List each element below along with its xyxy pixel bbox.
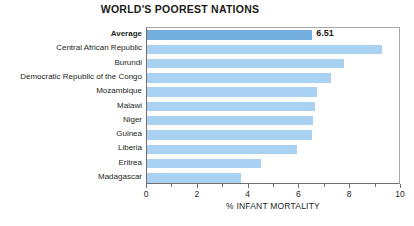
bar — [147, 130, 312, 139]
category-label: Guinea — [0, 129, 142, 138]
bar — [147, 102, 315, 111]
bar-row — [147, 142, 399, 156]
x-axis-minor-tick — [375, 184, 376, 187]
bar — [147, 173, 241, 182]
x-axis-minor-tick — [222, 184, 223, 187]
x-axis-tick — [400, 184, 401, 188]
category-label: Madagascar — [0, 172, 142, 181]
bar — [147, 116, 313, 125]
x-axis-minor-tick — [273, 184, 274, 187]
bar — [147, 73, 331, 82]
bar — [147, 145, 297, 154]
category-label: Burundi — [0, 58, 142, 67]
x-axis-tick — [298, 184, 299, 188]
category-label: Eritrea — [0, 158, 142, 167]
bar — [147, 59, 344, 68]
x-axis-tick-label: 0 — [144, 189, 149, 199]
category-label: Average — [0, 29, 142, 38]
bar-row — [147, 156, 399, 170]
x-axis-tick — [248, 184, 249, 188]
category-axis-labels: AverageCentral African RepublicBurundiDe… — [0, 27, 142, 184]
bar-row — [147, 42, 399, 56]
x-axis-minor-tick — [324, 184, 325, 187]
x-axis-tick-label: 2 — [194, 189, 199, 199]
bar-row — [147, 128, 399, 142]
x-axis-tick — [146, 184, 147, 188]
bar-row — [147, 85, 399, 99]
x-axis-tick-label: 6 — [296, 189, 301, 199]
chart-title: WORLD'S POOREST NATIONS — [0, 3, 360, 15]
x-axis-tick-label: 8 — [347, 189, 352, 199]
category-label: Democratic Republic of the Congo — [0, 72, 142, 81]
bar-row — [147, 99, 399, 113]
category-label: Central African Republic — [0, 43, 142, 52]
x-axis-tick-label: 4 — [245, 189, 250, 199]
bar — [147, 87, 317, 96]
category-label: Malawi — [0, 101, 142, 110]
category-label: Mozambique — [0, 86, 142, 95]
bar-row — [147, 114, 399, 128]
x-axis-tick — [349, 184, 350, 188]
bar-row — [147, 71, 399, 85]
category-label: Niger — [0, 115, 142, 124]
bar-row: 6.51 — [147, 28, 399, 42]
bar-row — [147, 171, 399, 185]
bar-value-label: 6.51 — [316, 28, 334, 38]
x-axis-minor-tick — [171, 184, 172, 187]
bars-layer: 6.51 — [147, 28, 399, 183]
x-axis-tick — [197, 184, 198, 188]
plot-area: 6.51 — [146, 27, 400, 184]
x-axis-title: % INFANT MORTALITY — [146, 201, 400, 211]
bar — [147, 45, 382, 54]
bar-chart-figure: WORLD'S POOREST NATIONS AverageCentral A… — [0, 0, 414, 226]
bar — [147, 30, 312, 39]
x-axis-tick-label: 10 — [395, 189, 404, 199]
bar — [147, 159, 261, 168]
bar-row — [147, 57, 399, 71]
category-label: Liberia — [0, 143, 142, 152]
